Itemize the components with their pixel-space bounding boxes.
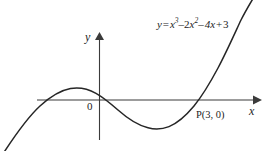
x-axis-arrow-icon xyxy=(253,95,262,104)
equation-term4-sign: + xyxy=(216,18,222,30)
equation-equals: = xyxy=(163,18,169,30)
point-p-label: P(3, 0) xyxy=(196,110,225,121)
origin-label: 0 xyxy=(87,101,93,112)
equation-label: y = x3–2x2– 4x + 3 xyxy=(157,19,229,30)
x-axis-label: x xyxy=(249,105,254,117)
graph-figure: y x 0 P(3, 0) y = x3–2x2– 4x + 3 xyxy=(0,0,268,151)
equation-term3-sign: – xyxy=(198,18,204,30)
y-axis-label: y xyxy=(85,31,90,43)
equation-term4: 3 xyxy=(223,18,229,30)
y-axis-arrow-icon xyxy=(95,32,104,40)
equation-term3: 4x xyxy=(205,18,215,30)
equation-lhs: y xyxy=(157,18,162,30)
